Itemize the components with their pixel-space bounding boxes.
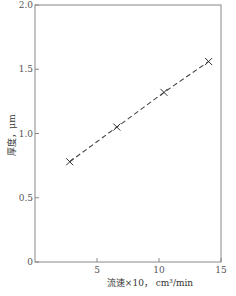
y-tick-label: 2.0 [19,0,34,10]
axis-ticks: 00.51.01.52.051015 [19,0,227,275]
y-axis-label: 厚度，μm [6,114,17,156]
x-tick-label: 15 [215,265,227,275]
plot-border [35,5,221,262]
x-marker-icon [66,158,73,165]
x-tick-label: 10 [153,265,165,275]
x-axis-label: 流速×10， cm³/min [107,277,193,288]
x-marker-icon [205,58,212,65]
y-tick-label: 1.5 [19,64,34,74]
dashed-line [70,62,209,162]
x-marker-icon [113,124,120,131]
plot-area-frame [35,5,221,262]
y-tick-label: 0 [27,257,33,267]
data-series [66,58,212,165]
y-tick-label: 1.0 [19,129,34,139]
chart: 00.51.01.52.051015 流速×10， cm³/min 厚度，μm [0,0,236,296]
x-marker-icon [160,89,167,96]
x-tick-label: 5 [94,265,100,275]
y-tick-label: 0.5 [19,193,34,203]
